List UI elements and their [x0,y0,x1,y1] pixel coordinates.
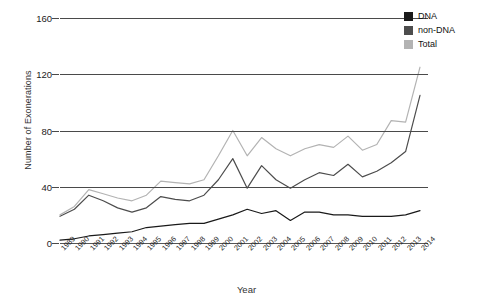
x-axis-title: Year [0,284,493,295]
legend-item-total[interactable]: Total [404,40,455,49]
y-tick-label-40: 40 [18,181,52,192]
plot-area [60,18,428,243]
legend-label: Total [418,40,437,49]
y-tick-mark-80 [52,131,59,132]
y-tick-label-0: 0 [18,238,52,249]
y-tick-label-160: 160 [18,13,52,24]
y-tick-label-120: 120 [18,69,52,80]
series-line-non-dna [60,95,420,216]
legend-swatch-icon [404,12,413,21]
y-tick-mark-0 [52,243,59,244]
legend-item-dna[interactable]: DNA [404,12,455,21]
legend-label: DNA [418,12,437,21]
legend-item-non-dna[interactable]: non-DNA [404,26,455,35]
gridline-120 [60,74,428,75]
gridline-160 [60,18,428,19]
chart-legend: DNAnon-DNATotal [404,12,455,54]
y-tick-mark-160 [52,18,59,19]
gridline-40 [60,187,428,188]
gridline-80 [60,131,428,132]
y-axis-tick-labels: 04080120160 [18,0,52,307]
legend-swatch-icon [404,26,413,35]
exonerations-line-chart: Number of Exonerations 04080120160 19891… [0,0,493,307]
series-line-total [60,67,420,215]
legend-label: non-DNA [418,26,455,35]
y-tick-label-80: 80 [18,125,52,136]
y-tick-mark-40 [52,187,59,188]
x-axis-tick-labels: 1989199019911992199319941995199619971998… [60,246,428,288]
legend-swatch-icon [404,40,413,49]
y-tick-mark-120 [52,74,59,75]
